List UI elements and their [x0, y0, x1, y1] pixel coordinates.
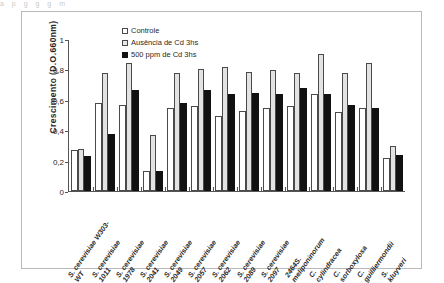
bar: [348, 105, 355, 191]
bar: [132, 90, 139, 191]
bar: [108, 134, 115, 191]
bar-group: [237, 40, 261, 191]
chart-frame: Crescimento (D.O.660nm) ControleAusência…: [21, 11, 422, 269]
legend-label: Controle: [131, 26, 159, 35]
bar: [300, 88, 307, 191]
y-tick-mark: [65, 40, 68, 41]
bar-group: [309, 40, 333, 191]
bar-group: [189, 40, 213, 191]
y-tick-mark: [65, 101, 68, 102]
bar-group: [117, 40, 141, 191]
x-axis-labels: S. cerevisiae W303-WTS. cerevisiae1011S.…: [69, 193, 406, 283]
bar: [156, 171, 163, 191]
bar-group: [69, 40, 93, 191]
bar: [324, 94, 331, 191]
y-tick-mark: [65, 192, 68, 193]
plot-area: 00,20,40,60,81: [68, 40, 405, 192]
bar-group: [93, 40, 117, 191]
bar: [228, 94, 235, 191]
bar-group: [213, 40, 237, 191]
bar: [204, 90, 211, 191]
bar-groups: [69, 40, 405, 191]
bar-group: [357, 40, 381, 191]
x-axis-line: [68, 191, 405, 192]
legend-swatch-icon: [122, 28, 128, 34]
legend-item-s0: Controle: [122, 26, 198, 35]
bar: [180, 103, 187, 191]
y-tick-mark: [65, 131, 68, 132]
y-tick-mark: [65, 162, 68, 163]
bar: [84, 156, 91, 191]
bar-group: [165, 40, 189, 191]
bar-group: [381, 40, 405, 191]
bar: [252, 93, 259, 191]
bar: [396, 155, 403, 191]
bar-group: [261, 40, 285, 191]
bar-group: [333, 40, 357, 191]
bar: [372, 108, 379, 191]
y-tick-mark: [65, 70, 68, 71]
bar: [276, 94, 283, 191]
bar-group: [285, 40, 309, 191]
scan-artifact-text: a p g g g m: [0, 0, 444, 10]
bar-group: [141, 40, 165, 191]
